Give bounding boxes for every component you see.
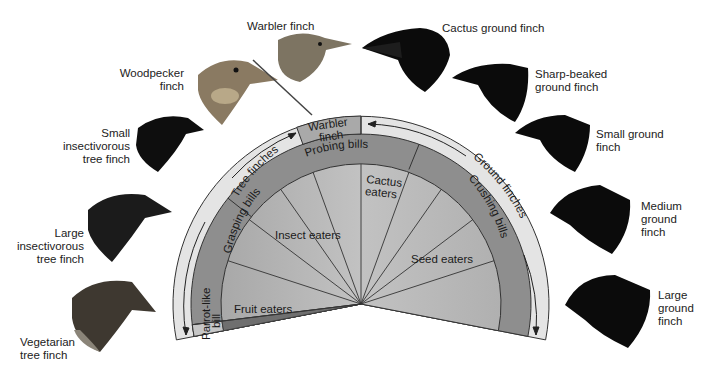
species-label-medium-ground: Mediumgroundfinch xyxy=(641,200,682,239)
species-label-vegetarian: Vegetariantree finch xyxy=(20,336,75,362)
species-label-small-insectivorous: Smallinsectivoroustree finch xyxy=(62,127,130,166)
species-label-woodpecker: Woodpeckerfinch xyxy=(118,67,184,93)
species-label-sharp-beaked: Sharp-beakedground finch xyxy=(535,68,607,94)
species-label-large-insectivorous: Largeinsectivoroustree finch xyxy=(14,227,84,266)
seed-eaters-label: Seed eaters xyxy=(411,253,473,265)
vegetarian-finch-head-icon xyxy=(72,281,156,352)
large-insectivorous-finch-head-icon xyxy=(88,194,172,262)
fan: Tree finches Ground finches Grasping bil… xyxy=(173,115,549,340)
species-label-cactus-ground: Cactus ground finch xyxy=(442,22,544,35)
small-insectivorous-finch-head-icon xyxy=(136,116,204,172)
insect-eaters-label: Insect eaters xyxy=(275,229,341,241)
species-label-warbler: Warbler finch xyxy=(247,20,314,33)
species-label-small-ground: Small groundfinch xyxy=(596,128,664,154)
cactus-ground-finch-head-icon xyxy=(362,28,450,92)
finch-diagram: Tree finches Ground finches Grasping bil… xyxy=(0,0,711,374)
small-ground-finch-head-icon xyxy=(515,115,590,172)
species-label-large-ground: Largegroundfinch xyxy=(658,289,694,328)
sharp-beaked-finch-head-icon xyxy=(452,64,528,122)
fruit-eaters-label: Fruit eaters xyxy=(234,303,292,315)
medium-ground-finch-head-icon xyxy=(550,185,630,254)
warbler-finch-head-icon xyxy=(278,33,352,82)
large-ground-finch-head-icon xyxy=(565,275,650,348)
